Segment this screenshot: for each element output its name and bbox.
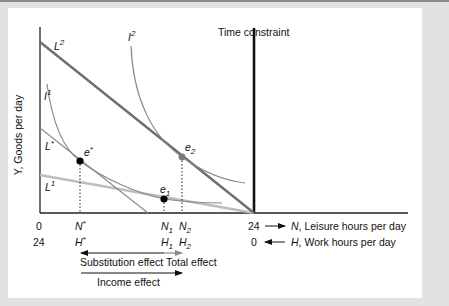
h-origin-label: 24 [33, 236, 45, 248]
tick-H2: H2 [179, 236, 192, 251]
label-L2: L2 [54, 38, 65, 52]
substitution-effect-label: Substitution effect [80, 256, 163, 268]
y-axis-label: Y, Goods per day [12, 94, 24, 175]
label-I1: I1 [44, 88, 51, 102]
time-constraint-label: Time constraint [218, 26, 289, 38]
point-estar [76, 157, 83, 164]
label-Lstar: L* [45, 139, 55, 152]
indifference-curve-I2 [131, 46, 245, 183]
label-estar: e* [84, 145, 94, 158]
labor-leisure-diagram: Y, Goods per day Time constraint L2 I2 I… [0, 0, 449, 306]
label-L1: L1 [45, 179, 55, 193]
indifference-curve-I1 [47, 84, 222, 203]
n-end-label: 24 [248, 220, 260, 232]
tick-Hstar: H* [75, 235, 87, 248]
n-axis-label: N, Leisure hours per day [291, 220, 407, 232]
label-e2: e2 [185, 141, 196, 156]
h-axis-label: H, Work hours per day [291, 236, 397, 248]
label-I2: I2 [128, 29, 136, 43]
tick-H1: H1 [161, 236, 173, 251]
income-effect-label: Income effect [97, 276, 160, 288]
point-e2 [179, 154, 186, 161]
tick-Nstar: N* [75, 219, 87, 232]
total-effect-label: Total effect [166, 256, 217, 268]
tick-N1: N1 [161, 220, 173, 235]
budget-line-L2 [40, 42, 254, 213]
h-end-label: 0 [251, 236, 257, 248]
n-origin-label: 0 [36, 220, 42, 232]
tick-N2: N2 [179, 220, 192, 235]
